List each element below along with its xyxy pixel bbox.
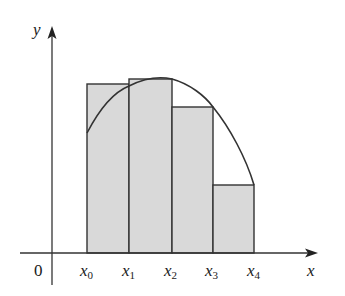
riemann-sum-figure: y x 0 x0 x1 x2 x3 x4 xyxy=(0,0,345,296)
origin-label: 0 xyxy=(34,262,43,279)
rectangles xyxy=(87,79,254,253)
tick-label-x1: x1 xyxy=(122,262,135,281)
tick-label-x0: x0 xyxy=(80,262,93,281)
x-axis-label: x xyxy=(307,262,315,279)
tick-label-x2: x2 xyxy=(164,262,177,281)
tick-label-x4: x4 xyxy=(247,262,260,281)
rectangle-2 xyxy=(129,79,172,253)
diagram-canvas xyxy=(0,0,345,296)
rectangle-1 xyxy=(87,84,129,253)
rectangle-4 xyxy=(213,185,254,253)
rectangle-3 xyxy=(172,107,213,253)
y-axis-label: y xyxy=(33,21,41,38)
tick-label-x3: x3 xyxy=(205,262,218,281)
